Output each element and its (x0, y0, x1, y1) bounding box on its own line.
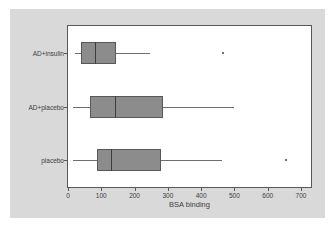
x-tick-label: 700 (296, 192, 307, 199)
x-tick-mark (301, 188, 302, 191)
box (81, 42, 116, 64)
x-tick-mark (268, 188, 269, 191)
x-tick-label: 0 (66, 192, 70, 199)
outlier-point (221, 51, 225, 55)
y-tick-mark (64, 160, 67, 161)
x-tick-mark (135, 188, 136, 191)
x-tick-mark (234, 188, 235, 191)
box (97, 149, 161, 171)
x-tick-mark (101, 188, 102, 191)
whisker-low (73, 160, 97, 161)
x-tick-mark (68, 188, 69, 191)
x-tick-mark (201, 188, 202, 191)
median-line (95, 42, 96, 64)
x-tick-label: 500 (229, 192, 240, 199)
whisker-high (163, 107, 235, 108)
y-tick-mark (64, 53, 67, 54)
x-tick-label: 400 (196, 192, 207, 199)
x-tick-label: 300 (162, 192, 173, 199)
whisker-high (116, 53, 149, 54)
whisker-high (161, 160, 222, 161)
outlier-point (284, 158, 288, 162)
x-axis-title: BSA binding (67, 200, 312, 209)
median-line (111, 149, 112, 171)
boxplot-figure: AD+insulinAD+placeboplacebo 010020030040… (0, 0, 336, 229)
x-tick-mark (168, 188, 169, 191)
plot-inner (68, 26, 311, 187)
median-line (115, 96, 116, 118)
whisker-low (73, 107, 90, 108)
x-tick-label: 600 (262, 192, 273, 199)
y-tick-label: AD+placebo (28, 103, 64, 110)
y-tick-label: placebo (41, 157, 64, 164)
x-tick-label: 100 (96, 192, 107, 199)
box (90, 96, 163, 118)
plot-area (67, 25, 312, 188)
x-tick-label: 200 (129, 192, 140, 199)
y-tick-label: AD+insulin (33, 49, 64, 56)
whisker-low (75, 53, 82, 54)
y-tick-mark (64, 107, 67, 108)
y-axis-labels: AD+insulinAD+placeboplacebo (10, 25, 64, 188)
